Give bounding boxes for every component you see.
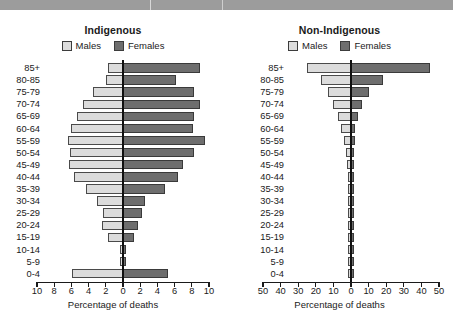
bar-males <box>74 172 123 181</box>
bar-pair <box>226 244 453 256</box>
chart-page: Indigenous Males Females 85+80-8575-7970… <box>0 0 453 314</box>
bar-pair <box>0 244 226 256</box>
bar-males <box>83 100 123 109</box>
bar-males <box>333 100 351 109</box>
bar-pair <box>226 123 453 135</box>
bar-males <box>108 233 123 242</box>
pyramid-row: 25-29 <box>226 207 453 219</box>
pyramid-row: 45-49 <box>226 159 453 171</box>
panel-indigenous: Indigenous Males Females 85+80-8575-7970… <box>0 10 226 314</box>
bar-pair <box>0 135 226 147</box>
bar-pair <box>226 135 453 147</box>
pyramid-row: 55-59 <box>0 135 226 147</box>
bar-pair <box>226 159 453 171</box>
bar-females <box>123 124 193 133</box>
bar-pair <box>0 147 226 159</box>
bar-pair <box>0 256 226 268</box>
bar-rows-non-indigenous: 85+80-8575-7970-7465-6960-6455-5950-5445… <box>226 58 453 276</box>
bar-females <box>123 100 200 109</box>
bar-males <box>69 160 123 169</box>
bar-pair <box>226 219 453 231</box>
bar-females <box>123 63 200 72</box>
bar-pair <box>226 231 453 243</box>
bar-females <box>351 63 430 72</box>
bar-pair <box>0 159 226 171</box>
legend-item-males: Males <box>62 41 101 51</box>
x-tick-label: 50 <box>428 287 450 296</box>
bar-females <box>351 100 362 109</box>
bar-females <box>123 160 183 169</box>
bar-females <box>123 184 165 193</box>
top-header-bar <box>0 0 453 10</box>
legend-indigenous: Males Females <box>0 41 226 51</box>
bar-males <box>93 87 123 96</box>
legend-item-males: Males <box>288 41 327 51</box>
bar-pair <box>226 62 453 74</box>
pyramid-row: 15-19 <box>0 231 226 243</box>
bar-pair <box>226 195 453 207</box>
bar-pair <box>226 183 453 195</box>
bar-males <box>70 148 123 157</box>
pyramid-row: 40-44 <box>226 171 453 183</box>
panel-non-indigenous: Non-Indigenous Males Females 85+80-8575-… <box>226 10 453 314</box>
pyramid-row: 85+ <box>0 62 226 74</box>
bar-females <box>123 221 138 230</box>
plot-area-indigenous: 85+80-8575-7970-7465-6960-6455-5950-5445… <box>0 58 226 276</box>
pyramid-row: 25-29 <box>0 207 226 219</box>
legend-swatch-females-icon <box>340 41 350 51</box>
pyramid-row: 45-49 <box>0 159 226 171</box>
zero-axis-line-indigenous <box>122 60 124 282</box>
bar-pair <box>0 62 226 74</box>
pyramid-row: 0-4 <box>0 268 226 280</box>
legend-swatch-males-icon <box>288 41 298 51</box>
bar-males <box>102 221 124 230</box>
bar-pair <box>226 268 453 280</box>
pyramid-row: 40-44 <box>0 171 226 183</box>
bar-females <box>123 233 134 242</box>
bar-pair <box>226 86 453 98</box>
x-axis-title-indigenous: Percentage of deaths <box>0 299 226 310</box>
pyramid-row: 65-69 <box>0 110 226 122</box>
bar-females <box>123 87 194 96</box>
bar-females <box>123 148 194 157</box>
pyramid-row: 85+ <box>226 62 453 74</box>
bar-females <box>123 269 168 278</box>
legend-label-females: Females <box>354 41 390 51</box>
bar-males <box>108 63 123 72</box>
bar-males <box>86 184 123 193</box>
bar-females <box>123 172 178 181</box>
bar-males <box>321 75 351 84</box>
bar-males <box>338 112 351 121</box>
bar-females <box>123 75 176 84</box>
bar-males <box>68 136 123 145</box>
bar-females <box>123 196 145 205</box>
bar-pair <box>0 231 226 243</box>
pyramid-row: 50-54 <box>0 147 226 159</box>
bar-pair <box>0 86 226 98</box>
bar-males <box>103 208 123 217</box>
pyramid-row: 60-64 <box>226 123 453 135</box>
legend-item-females: Females <box>340 41 390 51</box>
pyramid-row: 35-39 <box>226 183 453 195</box>
legend-non-indigenous: Males Females <box>226 41 453 51</box>
bar-pair <box>0 110 226 122</box>
legend-label-males: Males <box>76 41 101 51</box>
x-axis-title-non-indigenous: Percentage of deaths <box>226 299 453 310</box>
bar-pair <box>0 207 226 219</box>
bar-rows-indigenous: 85+80-8575-7970-7465-6960-6455-5950-5445… <box>0 58 226 276</box>
bar-pair <box>226 256 453 268</box>
bar-males <box>328 87 351 96</box>
pyramid-row: 60-64 <box>0 123 226 135</box>
bar-pair <box>0 171 226 183</box>
bar-females <box>123 112 194 121</box>
legend-item-females: Females <box>114 41 164 51</box>
bar-pair <box>0 268 226 280</box>
pyramid-row: 20-24 <box>226 219 453 231</box>
pyramid-row: 50-54 <box>226 147 453 159</box>
pyramid-row: 65-69 <box>226 110 453 122</box>
bar-females <box>351 75 383 84</box>
pyramid-row: 55-59 <box>226 135 453 147</box>
pyramid-row: 80-85 <box>0 74 226 86</box>
bar-pair <box>226 110 453 122</box>
pyramid-row: 75-79 <box>0 86 226 98</box>
